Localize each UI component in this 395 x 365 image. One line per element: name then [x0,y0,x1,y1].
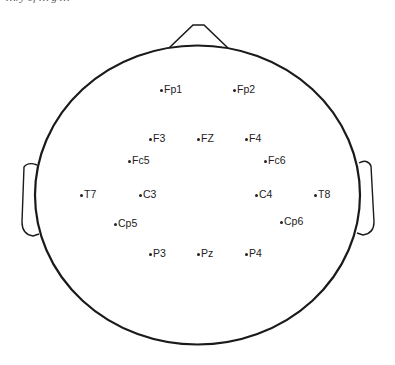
electrode-dot-icon [149,138,152,141]
electrode-dot-icon [314,194,317,197]
electrode-dot-icon [255,194,258,197]
electrode-t8: T8 [314,188,330,200]
electrode-dot-icon [139,194,142,197]
electrode-label: Cp5 [118,217,137,229]
electrode-dot-icon [128,160,131,163]
electrode-p4: P4 [245,247,262,259]
electrode-dot-icon [114,223,117,226]
electrode-label: Pz [201,247,213,259]
electrode-label: F4 [249,132,261,144]
electrode-t7: T7 [80,188,96,200]
electrode-dot-icon [264,160,267,163]
electrode-c4: C4 [255,188,272,200]
head-outline-svg [0,0,395,365]
electrode-dot-icon [233,89,236,92]
eeg-head-diagram: …ry of … g … Fp1Fp2F3FZF4Fc5Fc6T7C3C4T8C… [0,0,395,365]
electrode-f4: F4 [245,132,261,144]
electrode-label: Fp1 [164,83,182,95]
electrode-fp1: Fp1 [160,83,182,95]
electrode-label: Cp6 [284,215,303,227]
electrode-dot-icon [245,253,248,256]
electrode-p3: P3 [149,247,166,259]
electrode-label: Fc6 [268,154,286,166]
electrode-label: F3 [153,132,165,144]
electrode-label: Fc5 [132,154,150,166]
electrode-label: T7 [84,188,96,200]
electrode-cp5: Cp5 [114,217,137,229]
electrode-c3: C3 [139,188,156,200]
electrode-label: C3 [143,188,156,200]
electrode-fc6: Fc6 [264,154,286,166]
electrode-dot-icon [160,89,163,92]
electrode-fz: FZ [197,132,214,144]
electrode-dot-icon [197,253,200,256]
electrode-fc5: Fc5 [128,154,150,166]
electrode-dot-icon [245,138,248,141]
electrode-label: Fp2 [237,83,255,95]
electrode-pz: Pz [197,247,213,259]
electrode-dot-icon [280,221,283,224]
electrode-label: C4 [259,188,272,200]
electrode-dot-icon [149,253,152,256]
electrode-label: FZ [201,132,214,144]
electrode-cp6: Cp6 [280,215,303,227]
electrode-label: P4 [249,247,262,259]
electrode-label: T8 [318,188,330,200]
electrode-f3: F3 [149,132,165,144]
electrode-dot-icon [80,194,83,197]
electrode-dot-icon [197,138,200,141]
electrode-fp2: Fp2 [233,83,255,95]
electrode-label: P3 [153,247,166,259]
